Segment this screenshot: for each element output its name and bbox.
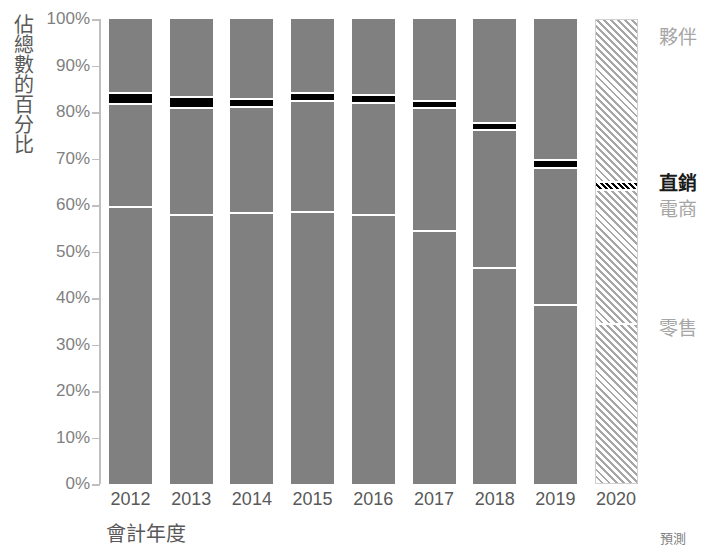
segment-separator [291, 92, 334, 94]
segment-retail[interactable] [534, 305, 577, 484]
segment-separator [595, 181, 638, 183]
x-tick-label-2013: 2013 [162, 489, 221, 510]
x-axis-title: 會計年度 [106, 518, 186, 547]
segment-partner[interactable] [170, 19, 213, 97]
x-tick-label-2020: 2020 [587, 489, 646, 510]
bar-column[interactable] [291, 19, 334, 484]
segment-separator [413, 100, 456, 102]
segment-separator [291, 211, 334, 213]
segment-separator [291, 100, 334, 102]
segment-separator [473, 267, 516, 269]
segment-separator [109, 92, 152, 94]
segment-ecommerce[interactable] [109, 104, 152, 207]
segment-partner[interactable] [534, 19, 577, 160]
segment-ecommerce[interactable] [291, 101, 334, 212]
segment-separator [170, 214, 213, 216]
segment-separator [230, 98, 273, 100]
stacked-bar-chart: 佔總數的百分比 0%10%20%30%40%50%60%70%80%90%100… [0, 0, 708, 554]
segment-partner[interactable] [109, 19, 152, 93]
series-label-電商: 電商 [659, 194, 697, 221]
series-label-夥伴: 夥伴 [659, 22, 697, 49]
segment-retail[interactable] [109, 207, 152, 484]
bar-column[interactable] [170, 19, 213, 484]
forecast-note: 預測 [660, 528, 686, 547]
bar-column[interactable] [109, 19, 152, 484]
segment-ecommerce[interactable] [595, 190, 638, 324]
segment-separator [352, 214, 395, 216]
segment-retail[interactable] [413, 231, 456, 484]
x-tick-label-2018: 2018 [465, 489, 524, 510]
segment-retail[interactable] [170, 215, 213, 484]
segment-ecommerce[interactable] [413, 108, 456, 231]
x-tick-label-2016: 2016 [344, 489, 403, 510]
bar-column[interactable] [473, 19, 516, 484]
segment-ecommerce[interactable] [230, 107, 273, 213]
segment-ecommerce[interactable] [534, 168, 577, 305]
segment-ecommerce[interactable] [473, 130, 516, 268]
series-label-零售: 零售 [659, 313, 697, 340]
segment-partner[interactable] [595, 19, 638, 182]
segment-separator [170, 96, 213, 98]
segment-retail[interactable] [291, 212, 334, 484]
x-tick-label-2015: 2015 [283, 489, 342, 510]
segment-separator [352, 94, 395, 96]
segment-partner[interactable] [291, 19, 334, 93]
segment-separator [413, 230, 456, 232]
x-tick-label-2012: 2012 [101, 489, 160, 510]
segment-separator [473, 129, 516, 131]
segment-separator [352, 102, 395, 104]
segment-separator [413, 107, 456, 109]
segment-separator [109, 206, 152, 208]
segment-separator [109, 103, 152, 105]
x-tick-label-2019: 2019 [526, 489, 585, 510]
segment-separator [230, 212, 273, 214]
segment-partner[interactable] [352, 19, 395, 95]
segment-retail[interactable] [595, 324, 638, 484]
x-tick-label-2014: 2014 [222, 489, 281, 510]
segment-separator [534, 167, 577, 169]
segment-ecommerce[interactable] [170, 108, 213, 215]
segment-ecommerce[interactable] [352, 103, 395, 216]
segment-partner[interactable] [473, 19, 516, 123]
segment-separator [230, 106, 273, 108]
segment-separator [534, 304, 577, 306]
series-label-直銷: 直銷 [659, 168, 697, 195]
x-tick-label-2017: 2017 [405, 489, 464, 510]
bar-column-forecast[interactable] [595, 19, 638, 484]
segment-separator [534, 159, 577, 161]
bar-column[interactable] [534, 19, 577, 484]
segment-partner[interactable] [413, 19, 456, 101]
segment-separator [473, 122, 516, 124]
plot-area [0, 0, 708, 554]
segment-separator [170, 107, 213, 109]
segment-retail[interactable] [352, 215, 395, 484]
bar-column[interactable] [352, 19, 395, 484]
segment-separator [595, 323, 638, 325]
bar-column[interactable] [230, 19, 273, 484]
segment-retail[interactable] [473, 268, 516, 484]
segment-retail[interactable] [230, 213, 273, 484]
segment-separator [595, 189, 638, 191]
segment-partner[interactable] [230, 19, 273, 99]
bar-column[interactable] [413, 19, 456, 484]
